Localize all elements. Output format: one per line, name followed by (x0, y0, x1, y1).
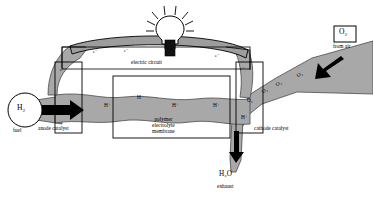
proton-marker: H⁺ (172, 103, 179, 109)
membrane-label: polymer electrolyte membrane (152, 117, 175, 134)
oxygen-marker: O₂ (247, 98, 253, 104)
proton-marker: H⁺ (137, 95, 144, 101)
electron-marker: e⁻ (215, 54, 220, 59)
exhaust-caption: exhaust (217, 184, 233, 190)
anode-electron-riser (48, 46, 86, 95)
electron-marker: e⁻ (240, 67, 245, 72)
proton-marker: H⁺ (213, 103, 220, 109)
membrane-label-line-3: membrane (152, 129, 175, 135)
electric-circuit-label: electric circuit (131, 60, 162, 66)
oxygen-source-label: O₂ (339, 28, 347, 36)
from-air-caption: from air (333, 44, 351, 50)
hydrogen-source-label: H₂ (17, 104, 25, 112)
anode-catalyst-label: anode catalyst (38, 126, 69, 132)
electron-marker: e⁻ (60, 68, 65, 73)
cathode-catalyst-label: cathode catalyst (254, 126, 289, 132)
electron-marker: e⁻ (93, 50, 98, 55)
diagram-vector-layer (0, 0, 373, 201)
electron-marker: e⁻ (170, 47, 175, 52)
fuel-cell-diagram: H₂ fuel anode catalyst electric circuit … (0, 0, 373, 201)
oxygen-intake-stream (236, 41, 373, 126)
fuel-caption: fuel (13, 128, 21, 134)
water-exhaust-label: H₂O (219, 171, 232, 179)
electron-marker: e⁻ (124, 49, 129, 54)
proton-marker: H⁺ (104, 103, 111, 109)
proton-marker: H⁺ (241, 115, 248, 121)
